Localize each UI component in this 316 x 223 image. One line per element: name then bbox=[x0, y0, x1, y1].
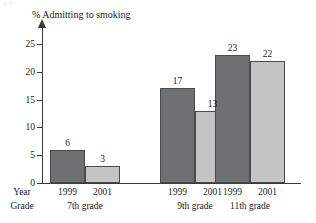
y-axis-tick-label: 20 bbox=[15, 67, 35, 77]
bar-value-label: 3 bbox=[85, 154, 121, 164]
y-axis-tick-mark bbox=[37, 183, 43, 184]
bar-11th-grade-2001 bbox=[250, 61, 285, 183]
row-header-year: Year bbox=[2, 187, 42, 198]
y-axis-tick-label: 5 bbox=[15, 150, 35, 160]
year-label: 2001 bbox=[250, 187, 286, 198]
y-axis-tick-label: 15 bbox=[15, 95, 35, 105]
year-label: 1999 bbox=[215, 187, 251, 198]
year-label: 1999 bbox=[50, 187, 86, 198]
bar-value-label: 6 bbox=[50, 138, 86, 148]
y-axis-tick-mark bbox=[37, 100, 43, 101]
grade-label: 11th grade bbox=[213, 201, 287, 212]
bar-9th-grade-1999 bbox=[160, 88, 195, 183]
bar-value-label: 17 bbox=[160, 76, 196, 86]
bar-value-label: 22 bbox=[250, 49, 286, 59]
year-label: 2001 bbox=[85, 187, 121, 198]
chart-title: % Admitting to smoking bbox=[32, 9, 131, 21]
bar-chart: 2.7 % Admitting to smoking 0510152025 61… bbox=[0, 0, 316, 223]
y-axis-line bbox=[42, 26, 43, 184]
y-axis-tick-mark bbox=[37, 127, 43, 128]
y-axis-tick-mark bbox=[37, 72, 43, 73]
bar-11th-grade-1999 bbox=[215, 55, 250, 183]
bar-7th-grade-2001 bbox=[85, 166, 120, 183]
x-axis-line bbox=[42, 183, 301, 184]
y-axis-tick-label: 10 bbox=[15, 122, 35, 132]
bar-7th-grade-1999 bbox=[50, 150, 85, 183]
bar-value-label: 13 bbox=[195, 99, 231, 109]
grade-label: 7th grade bbox=[48, 201, 122, 212]
year-label: 1999 bbox=[160, 187, 196, 198]
y-axis-tick-label: 25 bbox=[15, 39, 35, 49]
page-corner-mark: 2.7 bbox=[3, 0, 13, 8]
bar-value-label: 23 bbox=[215, 43, 251, 53]
row-header-grade: Grade bbox=[2, 201, 42, 212]
y-axis-tick-mark bbox=[37, 44, 43, 45]
y-axis-tick-mark bbox=[37, 155, 43, 156]
